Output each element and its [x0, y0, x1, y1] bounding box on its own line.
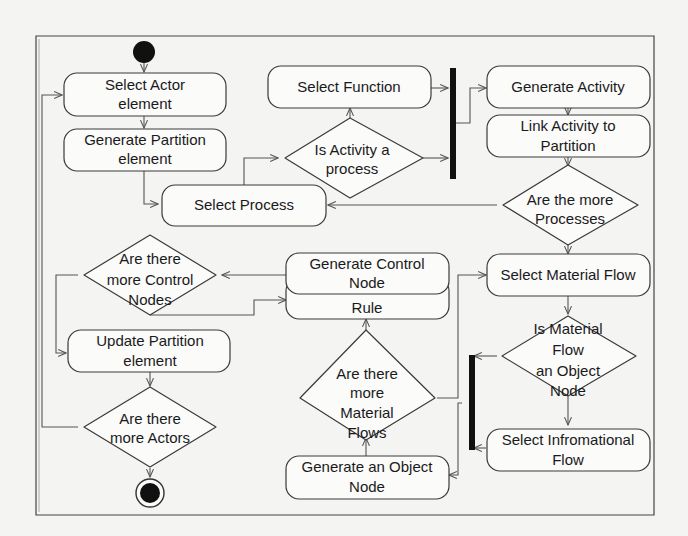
node-select-info-flow: Select Infromational Flow	[487, 429, 650, 471]
node-generate-control: Generate Control Node	[286, 253, 449, 294]
node-label: Flow	[552, 341, 584, 358]
join-bar	[469, 355, 475, 450]
node-label: Generate Partition	[84, 131, 206, 148]
node-label: Select Process	[194, 196, 294, 213]
node-label: Generate an Object	[302, 458, 434, 475]
node-label: more	[350, 384, 384, 401]
node-label: Generate Activity	[511, 78, 625, 95]
node-label: element	[123, 352, 177, 369]
node-select-actor: Select Actor element	[64, 73, 226, 116]
node-label: Are there	[119, 410, 181, 427]
node-generate-partition: Generate Partition element	[64, 129, 226, 171]
initial-node	[133, 41, 155, 63]
node-label: Select Function	[297, 78, 400, 95]
node-label: Material	[340, 404, 393, 421]
fork-bar	[450, 68, 456, 179]
final-node	[136, 479, 164, 507]
node-update-partition: Update Partition element	[68, 330, 230, 372]
node-label: Select Infromational	[502, 431, 635, 448]
node-label: Are the more	[527, 191, 614, 208]
node-more-processes: Are the more Processes	[503, 165, 638, 245]
node-label: Is Activity a	[314, 141, 390, 158]
node-more-material-flows: Are there more Material Flows	[300, 330, 435, 441]
node-label: Link Activity to	[520, 117, 615, 134]
node-label: Are there	[336, 365, 398, 382]
node-label: Flow	[552, 451, 584, 468]
node-label: more Control	[107, 271, 194, 288]
node-more-control-nodes: Are there more Control Nodes	[84, 235, 216, 315]
node-label: element	[118, 95, 172, 112]
node-label: Nodes	[128, 291, 171, 308]
node-link-activity: Link Activity to Partition	[487, 115, 650, 157]
node-label: Node	[349, 478, 385, 495]
node-generate-object-node: Generate an Object Node	[286, 456, 449, 499]
node-label: Update Partition	[96, 332, 204, 349]
node-more-actors: Are there more Actors	[84, 387, 216, 467]
node-label: Select Actor	[105, 76, 185, 93]
node-label: more Actors	[110, 429, 190, 446]
node-select-process: Select Process	[162, 185, 326, 226]
node-label: process	[326, 160, 379, 177]
node-label: Partition	[540, 137, 595, 154]
node-label: Node	[349, 274, 385, 291]
node-label: Flows	[347, 424, 386, 441]
node-label: Node	[550, 382, 586, 399]
node-label: an Object	[536, 362, 601, 379]
node-select-material-flow: Select Material Flow	[487, 254, 650, 296]
node-label: Rule	[352, 299, 383, 316]
node-label: Processes	[535, 210, 605, 227]
node-label: Is Material	[533, 320, 602, 337]
node-label: Select Material Flow	[500, 266, 635, 283]
node-label: element	[118, 150, 172, 167]
node-label: Are there	[119, 250, 181, 267]
node-select-function: Select Function	[268, 66, 431, 108]
activity-diagram: Select Actor element Generate Partition …	[0, 0, 688, 536]
node-is-material-object: Is Material Flow an Object Node	[502, 316, 636, 399]
node-label: Generate Control	[309, 255, 424, 272]
node-generate-activity: Generate Activity	[487, 66, 650, 108]
